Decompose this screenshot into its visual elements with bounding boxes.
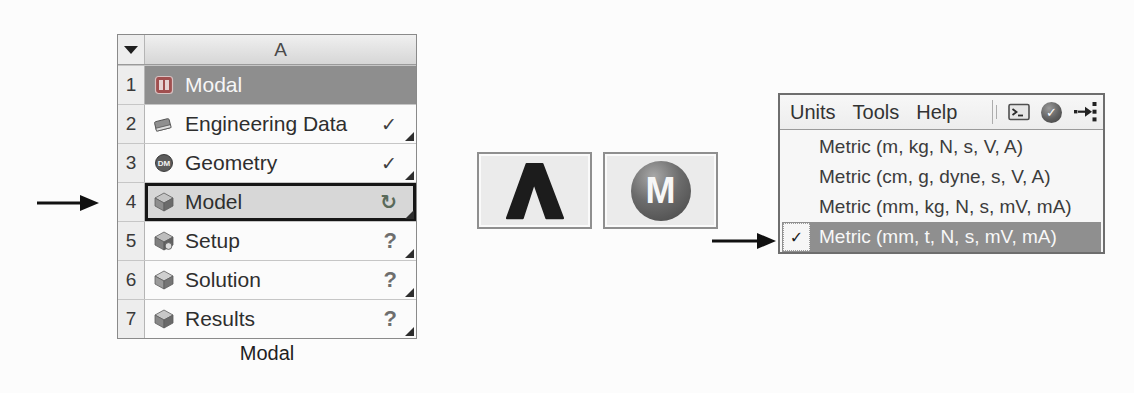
cell-label: Setup xyxy=(185,229,240,253)
cell-label: Solution xyxy=(185,268,261,292)
table-row-solution[interactable]: 6 Solution ? xyxy=(118,260,416,299)
units-options-list: Metric (m, kg, N, s, V, A) Metric (cm, g… xyxy=(780,130,1103,252)
chevron-down-icon xyxy=(124,46,138,54)
table-row-modal-system[interactable]: 1 Modal xyxy=(118,65,416,104)
option-label: Metric (mm, t, N, s, mV, mA) xyxy=(819,226,1057,248)
option-label: Metric (cm, g, dyne, s, V, A) xyxy=(819,166,1051,188)
solution-cube-icon xyxy=(153,270,174,291)
context-menu-triangle-icon[interactable] xyxy=(405,249,414,258)
question-status-icon: ? xyxy=(384,228,397,254)
context-menu-triangle-icon[interactable] xyxy=(405,171,414,180)
cell-label: Engineering Data xyxy=(185,112,347,136)
units-option-m-kg[interactable]: Metric (m, kg, N, s, V, A) xyxy=(780,132,1103,162)
menu-units[interactable]: Units xyxy=(790,101,836,124)
cell-label: Geometry xyxy=(185,151,277,175)
context-menu-triangle-icon[interactable] xyxy=(405,210,414,219)
row-number: 7 xyxy=(118,300,145,338)
annotation-arrow-units-icon xyxy=(711,232,777,250)
refresh-required-icon: ↻ xyxy=(380,190,397,214)
dm-badge: DM xyxy=(157,159,170,168)
table-row-results[interactable]: 7 Results ? xyxy=(118,299,416,338)
row-number: 1 xyxy=(118,66,145,104)
annotation-arrow-model-icon xyxy=(36,194,100,212)
check-status-icon: ✓ xyxy=(381,113,397,135)
mechanical-button[interactable]: M xyxy=(603,152,718,229)
check-status-icon: ✓ xyxy=(381,152,397,174)
table-row-model[interactable]: 4 Model ↻ xyxy=(118,182,416,221)
cell-label: Model xyxy=(185,190,242,214)
menubar: Units Tools Help ✓ xyxy=(780,95,1103,130)
mechanical-sphere-icon: M xyxy=(631,161,691,221)
system-caption: Modal xyxy=(117,342,417,365)
engineering-data-icon xyxy=(153,114,174,135)
job-status-check-icon[interactable]: ✓ xyxy=(1041,102,1062,123)
cell-label: Results xyxy=(185,307,255,331)
units-menu-panel: Units Tools Help ✓ xyxy=(778,93,1105,254)
figure-canvas: A 1 Modal 2 xyxy=(0,0,1134,393)
table-row-geometry[interactable]: 3 DM Geometry ✓ xyxy=(118,143,416,182)
option-label: Metric (mm, kg, N, s, mV, mA) xyxy=(819,196,1072,218)
table-row-setup[interactable]: 5 Setup ? xyxy=(118,221,416,260)
progress-transfer-icon[interactable] xyxy=(1073,101,1097,123)
question-status-icon: ? xyxy=(384,306,397,332)
option-label: Metric (m, kg, N, s, V, A) xyxy=(819,136,1023,158)
schematic-header-row: A xyxy=(118,35,416,65)
row-number: 2 xyxy=(118,105,145,143)
context-menu-triangle-icon[interactable] xyxy=(405,132,414,141)
cell-label: Modal xyxy=(185,73,242,97)
menu-tools[interactable]: Tools xyxy=(853,101,900,124)
modal-system-icon xyxy=(153,75,174,96)
table-row-engineering-data[interactable]: 2 Engineering Data ✓ xyxy=(118,104,416,143)
checkmark-gutter: ✓ xyxy=(783,223,810,251)
ansys-workbench-button[interactable] xyxy=(477,152,592,229)
geometry-dm-icon: DM xyxy=(153,153,174,174)
command-window-icon[interactable] xyxy=(1008,103,1030,121)
mechanical-m-glyph: M xyxy=(646,173,676,209)
row-number: 5 xyxy=(118,222,145,260)
row-number: 4 xyxy=(118,183,145,221)
context-menu-triangle-icon[interactable] xyxy=(405,288,414,297)
row-number: 3 xyxy=(118,144,145,182)
context-menu-triangle-icon[interactable] xyxy=(405,327,414,336)
column-a-header[interactable]: A xyxy=(145,35,416,64)
project-schematic-table: A 1 Modal 2 xyxy=(117,34,417,339)
model-cube-icon xyxy=(153,192,174,213)
ansys-logo-icon xyxy=(504,161,566,221)
setup-cube-icon xyxy=(153,231,174,252)
row-number: 6 xyxy=(118,261,145,299)
menu-help[interactable]: Help xyxy=(916,101,957,124)
results-cube-icon xyxy=(153,309,174,330)
checkmark-icon: ✓ xyxy=(790,228,803,247)
toolbar-separator xyxy=(996,105,997,119)
schematic-corner-cell[interactable] xyxy=(118,35,145,64)
question-status-icon: ? xyxy=(384,267,397,293)
units-option-cm-g[interactable]: Metric (cm, g, dyne, s, V, A) xyxy=(780,162,1103,192)
toolbar-separator xyxy=(992,100,993,124)
units-option-mm-kg[interactable]: Metric (mm, kg, N, s, mV, mA) xyxy=(780,192,1103,222)
units-option-mm-t-selected[interactable]: ✓ Metric (mm, t, N, s, mV, mA) xyxy=(782,222,1101,252)
